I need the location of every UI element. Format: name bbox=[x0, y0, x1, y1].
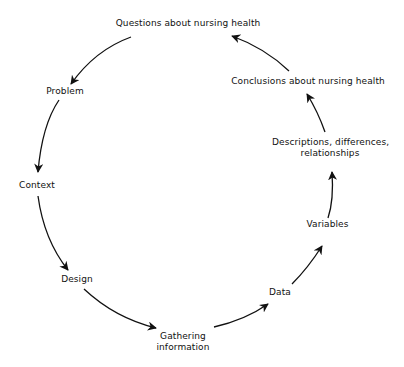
node-label: Variables bbox=[306, 219, 348, 229]
arrow-design-to-gathering bbox=[84, 289, 156, 328]
node-design: Design bbox=[52, 274, 102, 285]
arrow-questions-to-problem bbox=[71, 37, 131, 84]
arrow-data-to-variables bbox=[292, 246, 322, 284]
node-label: Problem bbox=[46, 86, 84, 96]
node-label-line1: Gathering bbox=[153, 331, 213, 342]
node-questions: Questions about nursing health bbox=[113, 18, 263, 29]
arrow-gathering-to-data bbox=[214, 304, 268, 327]
node-label: Data bbox=[269, 287, 291, 297]
node-label-line2: information bbox=[153, 342, 213, 353]
arrow-context-to-design bbox=[38, 196, 68, 270]
node-label: Conclusions about nursing health bbox=[231, 76, 385, 86]
research-cycle-diagram: Questions about nursing health Problem C… bbox=[0, 0, 404, 367]
node-conclusions: Conclusions about nursing health bbox=[228, 76, 388, 87]
node-descriptions: Descriptions, differences, relationships bbox=[272, 137, 388, 159]
arrow-descriptions-to-conclusions bbox=[307, 94, 325, 132]
node-label: Design bbox=[61, 274, 93, 284]
node-data: Data bbox=[265, 287, 295, 298]
node-label: Questions about nursing health bbox=[116, 18, 261, 28]
node-label-line1: Descriptions, differences, bbox=[272, 137, 388, 148]
arrow-conclusions-to-questions bbox=[232, 36, 289, 71]
node-problem: Problem bbox=[40, 86, 90, 97]
arrow-variables-to-descriptions bbox=[328, 172, 333, 218]
arrow-problem-to-context bbox=[38, 100, 59, 172]
node-label: Context bbox=[19, 180, 55, 190]
node-label-line2: relationships bbox=[272, 148, 388, 159]
node-context: Context bbox=[12, 180, 62, 191]
node-gathering-information: Gathering information bbox=[153, 331, 213, 353]
node-variables: Variables bbox=[300, 219, 355, 230]
